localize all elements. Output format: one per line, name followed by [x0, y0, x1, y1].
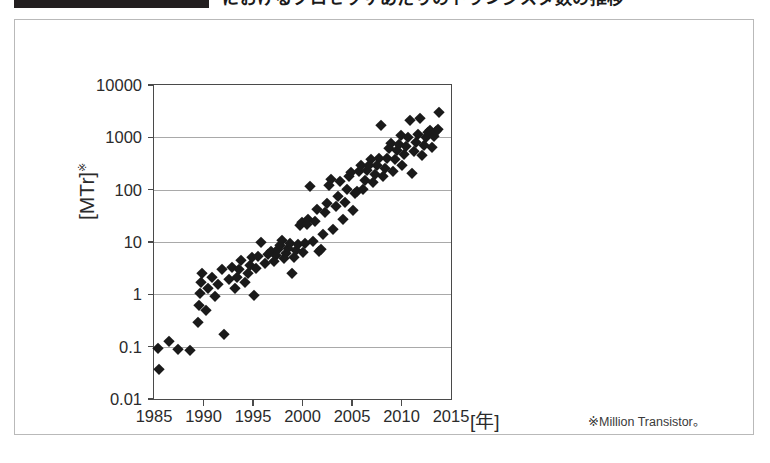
scatter-plot-area: 0.010.1110100100010000198519901995200020… — [153, 84, 452, 400]
figure-caption-strip: におけるプロセッサあたりのトランジスタ数の推移 — [0, 0, 770, 11]
scatter-point — [249, 290, 260, 301]
scatter-point — [154, 364, 165, 375]
scatter-point — [298, 247, 309, 258]
caption-title: におけるプロセッサあたりのトランジスタ数の推移 — [222, 0, 625, 9]
x-axis-tick — [302, 399, 304, 406]
x-axis-tick-label: 1990 — [185, 407, 222, 426]
scatter-point — [434, 106, 445, 117]
scatter-point — [427, 142, 438, 153]
scatter-point — [230, 282, 241, 293]
caption-number-badge — [14, 0, 209, 8]
y-gridline — [154, 190, 451, 191]
y-axis-tick-label: 10000 — [96, 76, 142, 95]
scatter-point — [308, 236, 319, 247]
y-axis-tick — [148, 84, 154, 86]
scatter-point — [417, 150, 428, 161]
scatter-point — [217, 264, 228, 275]
x-axis-tick-label: 1995 — [235, 407, 272, 426]
scatter-point — [397, 160, 408, 171]
y-axis-tick — [148, 189, 154, 191]
scatter-point — [201, 305, 212, 316]
scatter-point — [219, 329, 230, 340]
y-axis-tick-label: 100 — [114, 180, 142, 199]
scatter-point — [172, 344, 183, 355]
y-gridline — [154, 347, 451, 348]
x-axis-tick-label: 2000 — [284, 407, 321, 426]
scatter-point — [415, 113, 426, 124]
scatter-point — [407, 167, 418, 178]
scatter-point — [338, 213, 349, 224]
scatter-point — [240, 277, 251, 288]
x-axis-tick-label: 2005 — [334, 407, 371, 426]
scatter-point — [375, 120, 386, 131]
y-axis-tick-label: 10 — [124, 233, 142, 252]
y-axis-tick-label: 0.1 — [119, 337, 142, 356]
scatter-point — [163, 335, 174, 346]
scatter-point — [213, 279, 224, 290]
scatter-point — [310, 216, 321, 227]
y-axis-tick-label: 1 — [133, 285, 142, 304]
scatter-point — [196, 267, 207, 278]
y-axis-tick-label: 0.01 — [110, 390, 142, 409]
y-axis-tick — [148, 241, 154, 243]
y-axis-tick — [148, 137, 154, 139]
y-axis-title-superscript: ※ — [76, 163, 88, 172]
x-axis-tick — [203, 399, 205, 406]
scatter-point — [348, 205, 359, 216]
scatter-point — [256, 237, 267, 248]
scatter-point — [192, 316, 203, 327]
scatter-point — [153, 342, 164, 353]
scatter-point — [320, 207, 331, 218]
x-axis-tick — [351, 399, 353, 406]
y-axis-tick-label: 1000 — [105, 128, 142, 147]
x-axis-tick-label: 2010 — [383, 407, 420, 426]
scatter-point — [328, 223, 339, 234]
x-axis-tick-label: 1985 — [136, 407, 173, 426]
x-axis-title: [年] — [470, 406, 500, 433]
x-axis-tick — [252, 399, 254, 406]
scatter-point — [210, 291, 221, 302]
footnote-text: ※Million Transistor。 — [588, 411, 706, 430]
y-axis-tick — [148, 398, 154, 400]
y-axis-title: [MTr]※ — [75, 180, 99, 220]
y-axis-title-text: [MTr] — [75, 172, 98, 220]
y-axis-tick — [148, 294, 154, 296]
x-axis-tick — [401, 399, 403, 406]
x-axis-tick-label: 2015 — [433, 407, 470, 426]
scatter-point — [318, 229, 329, 240]
scatter-point — [286, 267, 297, 278]
figure-frame: 0.010.1110100100010000198519901995200020… — [14, 19, 754, 435]
